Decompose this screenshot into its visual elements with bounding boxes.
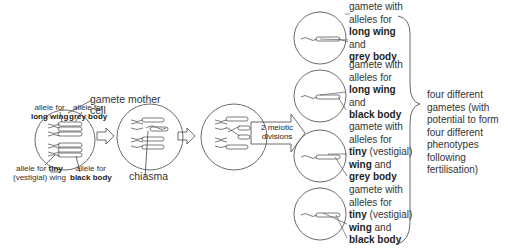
gamete-label-4: gamete with alleles for tiny (vestigial)… [349, 184, 412, 247]
gamete-label-2: gamete with alleles for long wing and bl… [349, 59, 403, 122]
allele-long-wing-label: allele for long wing [31, 103, 68, 121]
arrow-2 [178, 128, 195, 144]
cell-3-chromosomes [215, 117, 250, 149]
summary-label: four different gametes (with potential t… [427, 89, 499, 177]
allele-black-body-label: allele for black body [70, 164, 112, 182]
allele-grey-body-label: allele for grey body [69, 103, 107, 121]
arrow-1 [97, 128, 114, 144]
gamete-label-1: gamete with alleles for long wing and gr… [349, 1, 403, 64]
mother-cell-chromosomes [48, 122, 82, 157]
chiasma-label: chiasma [129, 171, 168, 182]
meiotic-divisions-label: 2 meiotic divisions [254, 123, 300, 141]
gamete-label-3: gamete with alleles for tiny (vestigial)… [349, 121, 412, 184]
gamete-cells [294, 12, 346, 240]
allele-tiny-wing-label: allele for tiny (vestigial) wing [13, 164, 66, 182]
gamete-leader-lines [320, 14, 350, 238]
cell-2-chromosomes [131, 118, 168, 149]
